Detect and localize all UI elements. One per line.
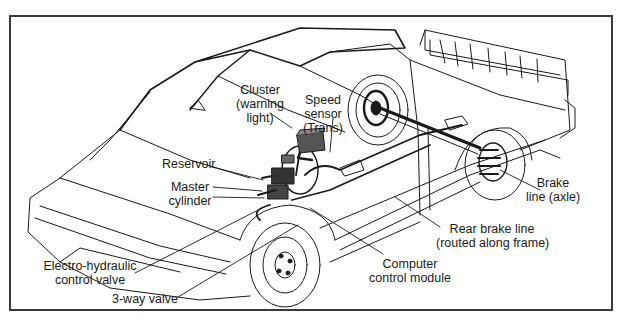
label-reservoir: Reservoir	[162, 157, 216, 171]
label-line: (warning	[228, 97, 292, 111]
label-line: 3-way valve	[112, 292, 178, 306]
label-computer-control-module: Computer control module	[368, 257, 452, 285]
label-line: Computer	[368, 257, 452, 271]
label-line: control module	[368, 271, 452, 285]
label-speed-sensor: Speed sensor (Trans)	[298, 93, 348, 135]
label-line: sensor	[298, 107, 348, 121]
label-line: Reservoir	[162, 157, 216, 171]
label-line: cylinder	[165, 194, 215, 208]
label-rear-brake-line: Rear brake line (routed along frame)	[436, 222, 548, 250]
label-line: Rear brake line	[436, 222, 548, 236]
left-rear-drum	[348, 75, 408, 145]
label-3-way-valve: 3-way valve	[112, 292, 178, 306]
label-cluster-warning-light: Cluster (warning light)	[228, 83, 292, 125]
rear-axle	[380, 108, 480, 154]
label-line: line (axle)	[521, 190, 585, 204]
label-line: (Trans)	[298, 121, 348, 135]
label-line: Speed	[298, 93, 348, 107]
label-master-cylinder: Master cylinder	[165, 180, 215, 208]
label-line: (routed along frame)	[436, 236, 548, 250]
label-line: Master	[165, 180, 215, 194]
label-line: light)	[228, 111, 292, 125]
label-electro-hydraulic-control-valve: Electro-hydraulic control valve	[40, 259, 140, 287]
label-line: Electro-hydraulic	[40, 259, 140, 273]
label-line: control valve	[40, 273, 140, 287]
front-wheel	[240, 205, 335, 307]
label-brake-line-axle: Brake line (axle)	[521, 176, 585, 204]
label-line: Cluster	[228, 83, 292, 97]
label-line: Brake	[521, 176, 585, 190]
